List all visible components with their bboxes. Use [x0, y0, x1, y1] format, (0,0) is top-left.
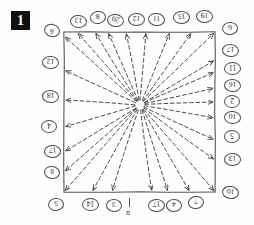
arrow-label-22: 14 — [82, 198, 99, 211]
radiating-arrow — [66, 106, 135, 127]
radiating-arrow — [65, 109, 136, 191]
arrow-label-15: 5 — [224, 130, 240, 143]
bottom-tick-mark — [129, 198, 130, 207]
radiating-arrow — [144, 109, 214, 190]
radiating-arrow — [93, 109, 137, 190]
radiating-arrow — [96, 34, 137, 101]
radiating-arrow — [144, 73, 213, 103]
radiating-arrow — [78, 34, 137, 102]
boundary-edge — [64, 32, 65, 192]
radiating-arrow — [66, 71, 136, 103]
arrow-label-26: 4 — [41, 120, 57, 133]
radiating-arrow — [66, 108, 137, 171]
boundary-edge — [64, 32, 215, 33]
radiating-arrow — [109, 34, 138, 101]
boundary-edge — [64, 192, 215, 193]
bottom-caption-glyph: n — [126, 208, 130, 218]
arrow-label-11: 11 — [224, 62, 241, 75]
arrow-label-13: 2 — [224, 95, 240, 108]
radiating-arrow — [66, 100, 135, 105]
radiating-arrow — [145, 102, 213, 104]
boundary-edge — [215, 32, 216, 192]
arrow-group — [65, 33, 213, 190]
radiating-arrow — [143, 109, 190, 190]
radiating-arrow — [66, 37, 137, 101]
figure-page: 1 91382012111519617111621051310741731458… — [0, 0, 254, 225]
radiating-arrows-diagram — [0, 0, 254, 225]
radiating-arrow — [143, 34, 191, 102]
radiating-arrow — [140, 34, 146, 100]
radiating-arrow — [113, 110, 139, 190]
radiating-arrow — [142, 34, 169, 100]
radiating-arrow — [66, 108, 136, 151]
radiating-arrow — [126, 34, 139, 100]
